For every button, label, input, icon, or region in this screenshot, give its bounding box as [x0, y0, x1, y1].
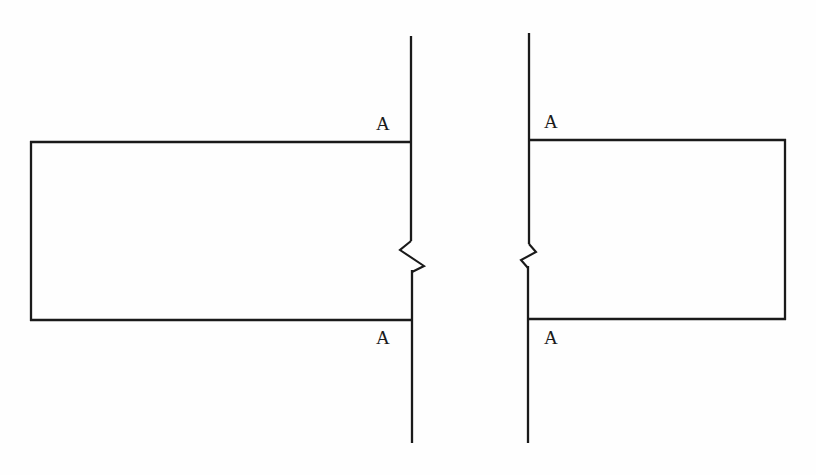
- technical-drawing-canvas: A A A A: [0, 0, 816, 475]
- right-break-symbol-icon: [521, 244, 536, 268]
- left-cutting-plane-line: [400, 36, 424, 443]
- section-label-left-top: A: [376, 113, 390, 134]
- drawing-svg-surface: A A A A: [0, 0, 816, 475]
- section-label-left-bottom: A: [376, 327, 390, 348]
- section-label-right-bottom: A: [544, 327, 558, 348]
- section-label-right-top: A: [544, 111, 558, 132]
- right-part-outline: [528, 139, 786, 320]
- left-part-outline: [30, 141, 412, 321]
- left-break-symbol-icon: [400, 241, 424, 272]
- right-cutting-plane-line: [521, 33, 536, 443]
